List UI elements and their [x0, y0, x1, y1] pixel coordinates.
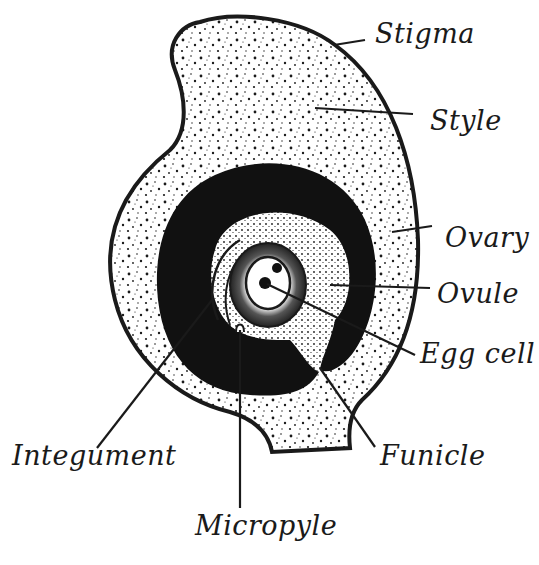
egg-cell-dot: [259, 277, 271, 289]
label-integument: Integument: [12, 440, 176, 471]
label-style: Style: [430, 105, 502, 136]
label-egg-cell: Egg cell: [420, 338, 535, 369]
egg-cell-nucleus: [272, 263, 282, 273]
label-funicle: Funicle: [380, 440, 485, 471]
leader-stigma: [334, 40, 365, 45]
label-ovary: Ovary: [445, 222, 529, 253]
label-stigma: Stigma: [375, 18, 475, 49]
label-micropyle: Micropyle: [195, 510, 337, 541]
label-ovule: Ovule: [437, 278, 519, 309]
pistil-diagram: Stigma Style Ovary Ovule Egg cell Funicl…: [0, 0, 539, 565]
